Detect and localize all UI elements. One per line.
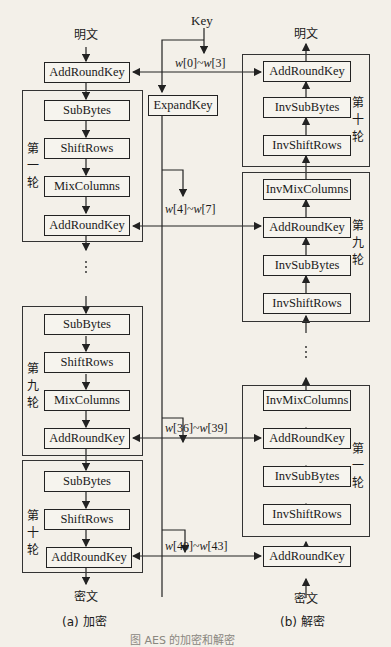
dec-r10-invshiftrows: InvShiftRows [263, 135, 351, 156]
dec-r1-invshiftrows: InvShiftRows [263, 504, 351, 525]
enc-initial-addroundkey: AddRoundKey [44, 62, 130, 83]
dec-r1-addroundkey: AddRoundKey [263, 428, 351, 449]
figure-caption: 图 AES 的加密和解密 [130, 631, 235, 647]
dec-round-10-label: 第十轮 [351, 95, 365, 146]
enc-r9-mixcolumns: MixColumns [44, 390, 130, 411]
key-label: Key [191, 13, 213, 29]
dec-ciphertext-label: 密文 [294, 592, 318, 606]
key-words-40-43: w[40]~w[43] [165, 539, 228, 554]
enc-r1-shiftrows: ShiftRows [44, 138, 130, 159]
key-words-0-3: w[0]~w[3] [175, 56, 226, 71]
enc-r9-subbytes: SubBytes [44, 314, 130, 335]
dec-round-9-label: 第九轮 [351, 218, 365, 269]
key-words-36-39: w[36]~w[39] [165, 421, 228, 436]
decryption-caption: (b) 解密 [280, 612, 325, 629]
dec-r10-addroundkey: AddRoundKey [263, 61, 351, 82]
dec-r9-invshiftrows: InvShiftRows [263, 293, 351, 314]
plaintext-label: 明文 [74, 28, 98, 42]
dec-plaintext-label: 明文 [294, 27, 318, 41]
key-words-4-7: w[4]~w[7] [165, 202, 216, 217]
dec-r1-invmixcolumns: InvMixColumns [263, 390, 351, 411]
enc-round-1-label: 第一轮 [26, 141, 40, 192]
dec-round-1-label: 第一轮 [351, 441, 365, 492]
expandkey-box: ExpandKey [148, 95, 218, 116]
dec-r9-addroundkey: AddRoundKey [263, 217, 351, 238]
dec-r10-invsubbytes: InvSubBytes [263, 97, 351, 118]
enc-r1-addroundkey: AddRoundKey [44, 215, 130, 236]
enc-r10-shiftrows: ShiftRows [44, 509, 130, 530]
dec-r1-invsubbytes: InvSubBytes [263, 466, 351, 487]
enc-r10-subbytes: SubBytes [44, 471, 130, 492]
enc-r1-mixcolumns: MixColumns [44, 176, 130, 197]
enc-r1-subbytes: SubBytes [44, 100, 130, 121]
enc-r9-addroundkey: AddRoundKey [44, 428, 130, 449]
enc-r10-addroundkey: AddRoundKey [46, 547, 132, 568]
ciphertext-label: 密文 [74, 590, 98, 604]
enc-round-9-label: 第九轮 [26, 361, 40, 412]
enc-round-10-label: 第十轮 [26, 508, 40, 559]
enc-r9-shiftrows: ShiftRows [44, 352, 130, 373]
encryption-caption: (a) 加密 [62, 612, 107, 629]
dec-initial-addroundkey: AddRoundKey [263, 546, 351, 567]
dec-r9-invsubbytes: InvSubBytes [263, 255, 351, 276]
dec-r9-invmixcolumns: InvMixColumns [263, 179, 351, 200]
